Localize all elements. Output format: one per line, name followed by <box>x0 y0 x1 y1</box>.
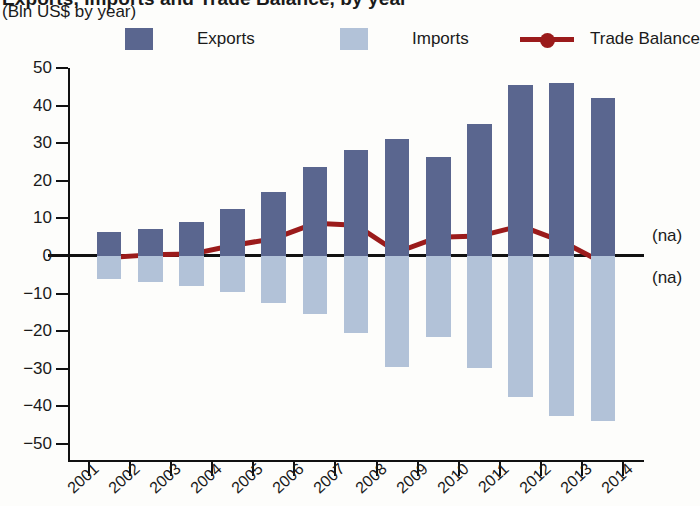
x-axis-label: 2002 <box>105 460 143 497</box>
x-axis-label: 2010 <box>434 460 472 497</box>
chart-subtitle: (Bln US$ by year) <box>2 2 136 22</box>
y-axis-tick <box>56 217 68 219</box>
imports-swatch-icon <box>340 28 368 50</box>
y-axis-label: −30 <box>6 359 52 379</box>
legend-label-imports: Imports <box>412 29 469 49</box>
y-axis-label: 50 <box>6 58 52 78</box>
bar-imports <box>549 256 574 416</box>
x-axis-label: 2014 <box>599 460 637 497</box>
bar-imports <box>220 256 245 292</box>
trade-balance-line-marker-icon <box>520 28 574 50</box>
bar-imports <box>508 256 533 397</box>
y-axis-tick <box>56 67 68 69</box>
bar-exports <box>261 192 286 256</box>
bar-exports <box>303 167 328 256</box>
x-axis-label: 2011 <box>475 460 513 496</box>
bar-exports <box>426 157 451 256</box>
x-axis-label: 2001 <box>64 460 102 497</box>
x-axis-label: 2005 <box>228 460 266 497</box>
y-axis-label: 20 <box>6 171 52 191</box>
exports-swatch-icon <box>125 28 153 50</box>
bar-exports <box>591 98 616 256</box>
x-axis-label: 2008 <box>352 460 390 497</box>
bar-exports <box>508 85 533 256</box>
plot-area: 50403020100−10−20−30−40−5020012002200320… <box>68 68 644 444</box>
y-axis-tick <box>56 255 68 257</box>
y-axis-label: 10 <box>6 208 52 228</box>
bar-exports <box>179 222 204 256</box>
bar-exports <box>467 124 492 256</box>
legend-item-imports[interactable]: Imports <box>340 26 469 52</box>
x-axis-label: 2007 <box>311 460 349 497</box>
x-axis-left-stub <box>68 444 70 462</box>
y-axis-tick <box>56 180 68 182</box>
bar-exports <box>344 150 369 256</box>
na-label-lower: (na) <box>652 268 682 288</box>
bar-exports <box>385 139 410 256</box>
y-axis-label: −50 <box>6 434 52 454</box>
bar-imports <box>97 256 122 279</box>
y-axis-label: −20 <box>6 321 52 341</box>
y-axis-label: −10 <box>6 284 52 304</box>
x-axis-label: 2013 <box>557 460 595 497</box>
bar-imports <box>385 256 410 367</box>
legend-label-exports: Exports <box>197 29 255 49</box>
bar-imports <box>303 256 328 314</box>
y-axis-label: −40 <box>6 396 52 416</box>
y-axis-tick <box>56 330 68 332</box>
bar-imports <box>261 256 286 303</box>
y-axis-tick <box>56 368 68 370</box>
y-axis-tick <box>56 105 68 107</box>
bar-imports <box>426 256 451 337</box>
bar-exports <box>97 232 122 256</box>
y-axis-label: 30 <box>6 133 52 153</box>
y-axis-label: 0 <box>6 246 52 266</box>
x-axis-line <box>68 460 644 462</box>
x-axis-label: 2004 <box>187 460 225 497</box>
x-axis-label: 2003 <box>146 460 184 497</box>
bar-imports <box>591 256 616 421</box>
legend-label-trade-balance: Trade Balance <box>590 29 700 49</box>
legend-item-trade-balance[interactable]: Trade Balance <box>520 26 700 52</box>
y-axis-tick <box>56 405 68 407</box>
bar-exports <box>138 229 163 256</box>
bar-imports <box>344 256 369 333</box>
bar-exports <box>220 209 245 256</box>
bar-imports <box>179 256 204 286</box>
y-axis-tick <box>56 293 68 295</box>
y-axis-tick <box>56 142 68 144</box>
y-axis-label: 40 <box>6 96 52 116</box>
bar-imports <box>467 256 492 368</box>
x-axis-label: 2012 <box>516 460 554 497</box>
x-axis-label: 2006 <box>269 460 307 497</box>
y-axis-tick <box>56 443 68 445</box>
na-label-upper: (na) <box>652 226 682 246</box>
x-axis-label: 2009 <box>393 460 431 497</box>
legend-item-exports[interactable]: Exports <box>125 26 255 52</box>
bar-imports <box>138 256 163 282</box>
bar-exports <box>549 83 574 256</box>
